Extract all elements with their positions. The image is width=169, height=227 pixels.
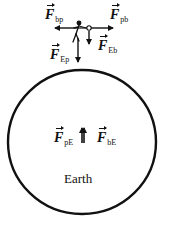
earth-label: Earth [64,172,92,185]
person-icon [73,21,86,42]
label-F-Ep: FEp [50,48,69,67]
label-F-pb: Fpb [110,8,128,27]
force-diagram [0,0,169,227]
label-F-bE: FbE [97,131,116,150]
arrow-F-pE-F-bE [82,128,84,143]
label-F-pE: FpE [54,131,73,150]
ball-icon [87,26,91,30]
label-F-Eb: FEb [98,39,117,58]
label-F-bp: Fbp [45,8,63,27]
